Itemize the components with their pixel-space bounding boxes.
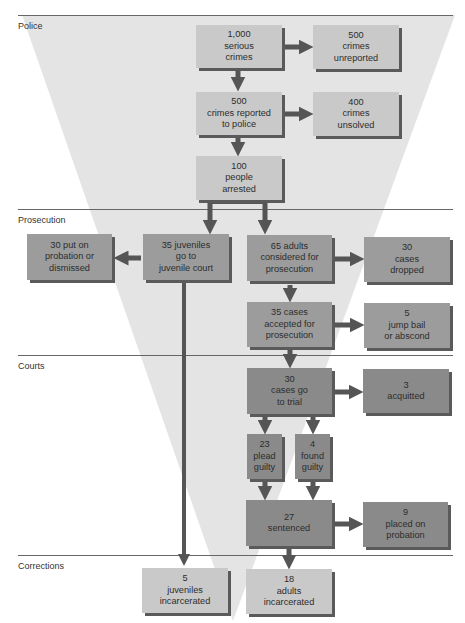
box-text: acquitted: [387, 391, 424, 403]
box-people-arrested: 100 people arrested: [196, 156, 282, 200]
section-label-corrections: Corrections: [18, 561, 64, 571]
box-text: juvenile court: [159, 263, 213, 275]
box-text: jump bail: [384, 320, 429, 332]
section-divider-courts: [18, 355, 453, 356]
box-text: 23: [253, 439, 275, 451]
box-text: dropped: [390, 265, 424, 277]
box-crimes-reported: 500 crimes reported to police: [196, 92, 282, 135]
box-text: unreported: [334, 53, 378, 65]
box-text: cases: [390, 254, 424, 266]
box-text: dismissed: [45, 263, 94, 275]
box-text: people: [222, 172, 256, 184]
box-text: crimes reported: [207, 108, 271, 120]
box-text: found: [301, 451, 324, 463]
box-text: unsolved: [338, 120, 375, 132]
box-text: adults: [264, 586, 315, 598]
box-text: 500: [334, 30, 378, 42]
box-text: 5: [384, 308, 429, 320]
section-divider-police: [18, 15, 453, 16]
box-text: 1,000: [224, 29, 254, 41]
box-text: plead: [253, 451, 275, 463]
box-serious-crimes: 1,000 serious crimes: [196, 25, 282, 68]
box-text: accepted for: [264, 319, 315, 331]
section-divider-prosecution: [18, 209, 453, 210]
box-text: to police: [207, 119, 271, 131]
box-text: incarcerated: [160, 596, 211, 608]
box-text: 35 cases: [264, 307, 315, 319]
box-text: guilty: [301, 462, 324, 474]
box-text: crimes: [334, 41, 378, 53]
box-text: 30: [390, 242, 424, 254]
box-cases-accepted: 35 cases accepted for prosecution: [247, 302, 332, 347]
box-text: 100: [222, 161, 256, 173]
box-text: 9: [386, 507, 426, 519]
box-jump-bail: 5 jump bail or abscond: [364, 303, 450, 348]
section-divider-corrections: [18, 555, 453, 556]
box-text: probation or: [45, 251, 94, 263]
box-sentenced: 27 sentenced: [246, 500, 332, 546]
box-juveniles-incarcerated: 5 juveniles incarcerated: [142, 568, 228, 613]
box-text: sentenced: [268, 523, 310, 535]
box-text: cases go: [271, 385, 308, 397]
box-crimes-unsolved: 400 crimes unsolved: [313, 92, 399, 136]
box-juvenile-court: 35 juveniles go to juvenile court: [143, 234, 229, 280]
box-text: probation: [386, 530, 426, 542]
box-text: guilty: [253, 462, 275, 474]
section-label-prosecution: Prosecution: [18, 215, 66, 225]
box-found-guilty: 4 found guilty: [295, 434, 330, 479]
box-text: placed on: [386, 519, 426, 531]
box-text: incarcerated: [264, 597, 315, 609]
box-crimes-unreported: 500 crimes unreported: [313, 25, 399, 69]
box-text: 35 juveniles: [159, 240, 213, 252]
box-text: arrested: [222, 184, 256, 196]
box-text: 27: [268, 512, 310, 524]
box-text: 30 put on: [45, 240, 94, 252]
box-text: crimes: [338, 108, 375, 120]
section-label-police: Police: [18, 21, 43, 31]
section-label-courts: Courts: [18, 361, 45, 371]
box-text: 30: [271, 374, 308, 386]
box-text: 3: [387, 380, 424, 392]
box-text: prosecution: [260, 264, 318, 276]
box-adults-incarcerated: 18 adults incarcerated: [246, 569, 332, 614]
box-text: prosecution: [264, 330, 315, 342]
box-text: 18: [264, 574, 315, 586]
box-adults-considered: 65 adults considered for prosecution: [247, 235, 332, 281]
box-text: to trial: [271, 397, 308, 409]
box-text: crimes: [224, 52, 254, 64]
box-cases-dropped: 30 cases dropped: [364, 237, 450, 282]
box-text: considered for: [260, 252, 318, 264]
box-text: 4: [301, 439, 324, 451]
box-text: 5: [160, 573, 211, 585]
box-text: go to: [159, 251, 213, 263]
box-text: juveniles: [160, 585, 211, 597]
box-text: 400: [338, 97, 375, 109]
box-text: or abscond: [384, 331, 429, 343]
box-text: 65 adults: [260, 241, 318, 253]
box-text: serious: [224, 41, 254, 53]
box-plead-guilty: 23 plead guilty: [247, 434, 282, 479]
box-go-to-trial: 30 cases go to trial: [247, 368, 332, 414]
box-text: 500: [207, 96, 271, 108]
box-acquitted: 3 acquitted: [363, 369, 449, 413]
box-placed-probation: 9 placed on probation: [363, 502, 448, 547]
box-probation-dismissed: 30 put on probation or dismissed: [27, 234, 112, 280]
